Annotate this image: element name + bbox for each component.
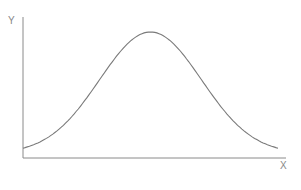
plot-area	[0, 0, 301, 190]
x-axis-label: X	[280, 160, 287, 171]
bell-curve-line	[23, 32, 278, 148]
y-axis-label: Y	[8, 15, 15, 26]
